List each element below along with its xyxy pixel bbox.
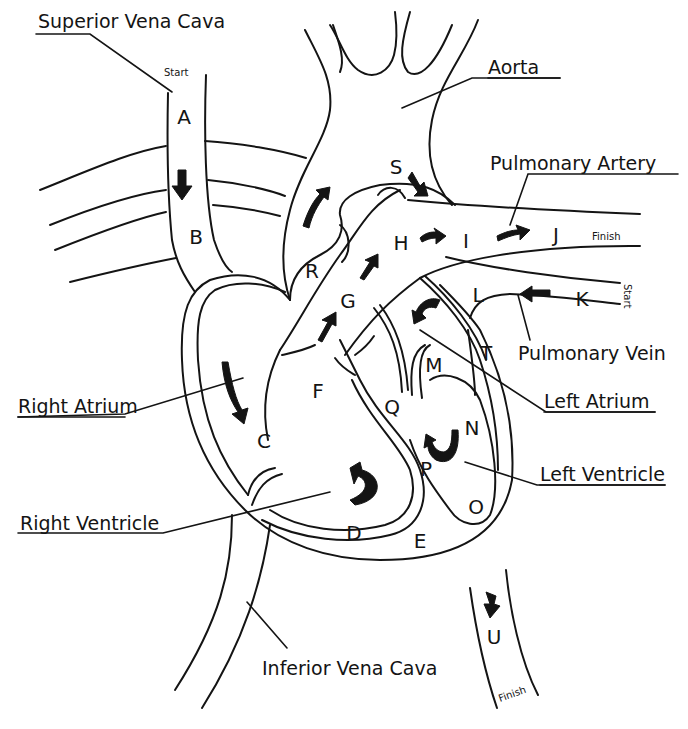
label-inferior-vena-cava: Inferior Vena Cava [262, 657, 437, 679]
letter-h: H [393, 231, 408, 255]
leader-lines [18, 34, 678, 648]
label-right-atrium: Right Atrium [18, 395, 138, 417]
letter-o: O [468, 495, 484, 519]
label-left-ventricle: Left Ventricle [540, 463, 665, 485]
arrow-down-u [484, 592, 500, 618]
letter-d: D [346, 521, 361, 545]
pulmonary-artery-vessel [280, 188, 640, 355]
letter-l: L [472, 283, 484, 307]
label-left-atrium: Left Atrium [544, 390, 650, 412]
descending-aorta-vessel [470, 570, 538, 708]
arrow-curve-d [350, 462, 377, 505]
letter-j: J [551, 223, 559, 247]
finish-marker-right: Finish [592, 231, 620, 242]
arrow-up-r [303, 187, 330, 228]
start-marker-top: Start [164, 67, 189, 78]
label-superior-vena-cava: Superior Vena Cava [38, 10, 225, 32]
arrow-curve-l-m [412, 299, 440, 324]
letter-u: U [487, 625, 502, 649]
letter-e: E [414, 529, 427, 553]
letter-q: Q [384, 395, 400, 419]
letter-r: R [305, 259, 319, 283]
arrow-i-j [497, 225, 530, 241]
finish-marker-bottom: Finish [497, 684, 528, 704]
letter-c: C [257, 429, 271, 453]
arrow-down-c [222, 362, 248, 424]
letter-p: P [420, 457, 432, 481]
letter-i: I [463, 229, 469, 253]
letter-s: S [390, 155, 403, 179]
arrow-up-g [318, 312, 336, 342]
heart-blood-flow-diagram: A B C D E F G H I J K L M N O P Q R S T … [0, 0, 688, 729]
arrow-up-h [360, 254, 378, 280]
left-lung-vessels [40, 141, 306, 282]
label-aorta: Aorta [488, 56, 539, 78]
label-pulmonary-artery: Pulmonary Artery [490, 152, 656, 174]
arrow-k-l [520, 286, 550, 302]
letter-m: M [425, 353, 442, 377]
letter-t: T [479, 341, 493, 365]
letter-g: G [340, 289, 356, 313]
arrow-down-a-b [172, 170, 192, 200]
label-pulmonary-vein: Pulmonary Vein [518, 342, 666, 364]
label-underlines [18, 78, 665, 485]
letter-n: N [465, 416, 480, 440]
start-marker-right: Start [622, 284, 633, 309]
letter-a: A [177, 105, 191, 129]
arrow-h-i [420, 228, 446, 244]
label-right-ventricle: Right Ventricle [20, 512, 159, 534]
letter-k: K [575, 287, 589, 311]
path-letters: A B C D E F G H I J K L M N O P Q R S T … [177, 105, 589, 649]
flow-arrows [172, 170, 550, 618]
letter-b: B [189, 225, 203, 249]
letter-f: F [312, 379, 324, 403]
